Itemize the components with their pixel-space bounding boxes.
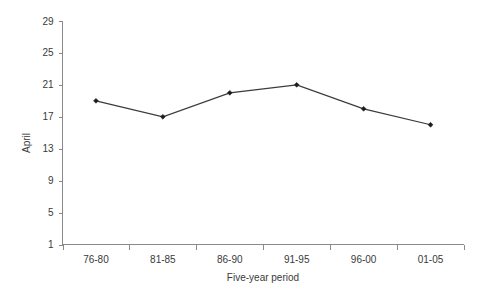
y-tick-label: 21 bbox=[42, 79, 54, 90]
x-tick-label: 86-90 bbox=[217, 254, 243, 265]
y-axis-title: April bbox=[21, 133, 32, 153]
line-chart: 1591317212529 76-8081-8586-9091-9596-000… bbox=[0, 0, 485, 301]
x-axis-ticks: 76-8081-8586-9091-9596-0001-05 bbox=[64, 245, 465, 265]
data-point-marker bbox=[294, 82, 299, 87]
x-axis-title: Five-year period bbox=[227, 272, 299, 283]
data-point-marker bbox=[361, 106, 366, 111]
chart-canvas: 1591317212529 76-8081-8586-9091-9596-000… bbox=[0, 0, 485, 301]
y-tick-label: 5 bbox=[48, 207, 54, 218]
x-tick-label: 76-80 bbox=[83, 254, 109, 265]
data-point-marker bbox=[428, 122, 433, 127]
data-point-marker bbox=[227, 90, 232, 95]
y-tick-label: 29 bbox=[42, 16, 54, 27]
x-tick-label: 96-00 bbox=[351, 254, 377, 265]
y-tick-label: 1 bbox=[48, 239, 54, 250]
y-tick-label: 9 bbox=[48, 175, 54, 186]
series-line-april bbox=[96, 85, 431, 125]
y-axis-ticks: 1591317212529 bbox=[42, 16, 62, 251]
data-point-marker bbox=[94, 98, 99, 103]
y-tick-label: 17 bbox=[42, 111, 54, 122]
y-tick-label: 13 bbox=[42, 143, 54, 154]
x-tick-label: 81-85 bbox=[150, 254, 176, 265]
x-tick-label: 01-05 bbox=[418, 254, 444, 265]
y-tick-label: 25 bbox=[42, 47, 54, 58]
x-tick-label: 91-95 bbox=[284, 254, 310, 265]
data-point-marker bbox=[160, 114, 165, 119]
